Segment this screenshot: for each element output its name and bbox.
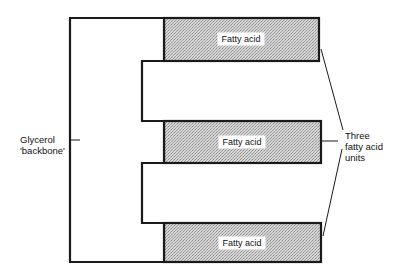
glycerol-label: Glycerol 'backbone'	[20, 134, 65, 156]
glycerol-label-line1: Glycerol	[20, 134, 65, 145]
fatty-acid-label-2: Fatty acid	[218, 136, 265, 149]
bracket-label-line2: fatty acid	[345, 141, 383, 152]
glycerol-backbone	[70, 18, 164, 262]
bracket-upper-line	[321, 49, 343, 130]
bracket-lower-line	[323, 149, 342, 236]
glycerol-label-line2: 'backbone'	[20, 145, 65, 156]
fatty-acid-units-label: Three fatty acid units	[345, 130, 383, 163]
fatty-acid-label-3: Fatty acid	[218, 237, 265, 250]
bracket-label-line1: Three	[345, 130, 383, 141]
fatty-acid-label-1: Fatty acid	[217, 33, 264, 46]
bracket-label-line3: units	[345, 152, 383, 163]
